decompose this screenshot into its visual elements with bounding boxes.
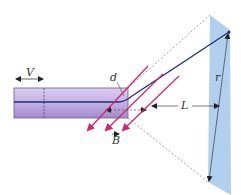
voltage-label: V: [26, 67, 34, 78]
radius-label: r: [215, 72, 220, 83]
electron-tube: [14, 88, 128, 118]
distance-label: L: [181, 100, 188, 111]
diagram-canvas: [0, 0, 241, 195]
gap-label: d: [110, 72, 117, 83]
projection-line-bottom: [128, 118, 208, 182]
screen: [208, 15, 231, 195]
projection-line-top: [128, 15, 210, 88]
field-label: B: [112, 135, 120, 146]
beam-impact-point: [228, 31, 231, 34]
